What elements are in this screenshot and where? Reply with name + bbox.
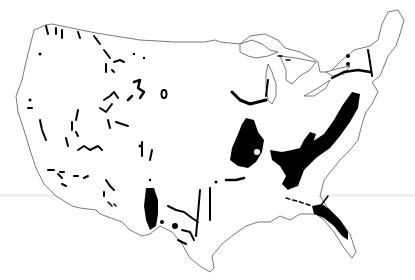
ny-spot	[346, 54, 350, 58]
texas-spot	[160, 220, 164, 224]
us-map	[0, 0, 415, 280]
florida-panhandle-region	[312, 204, 348, 240]
ozark-hole	[254, 149, 260, 155]
ny-spot	[346, 62, 350, 66]
florida-stem	[322, 196, 328, 204]
texas-spot	[172, 223, 178, 229]
map-container	[0, 0, 415, 280]
arkansas-dot	[215, 181, 218, 184]
